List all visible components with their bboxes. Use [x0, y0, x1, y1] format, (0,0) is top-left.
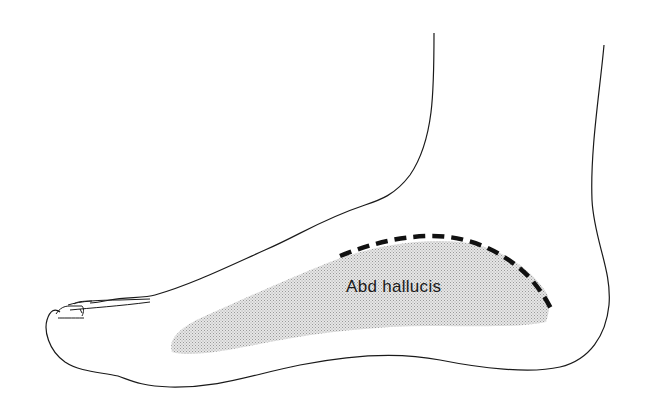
abd-hallucis-label: Abd hallucis — [346, 277, 441, 297]
foot-diagram: Abd hallucis — [0, 0, 649, 398]
abductor-hallucis-region — [171, 241, 549, 354]
heel-sole-outline — [46, 45, 609, 387]
